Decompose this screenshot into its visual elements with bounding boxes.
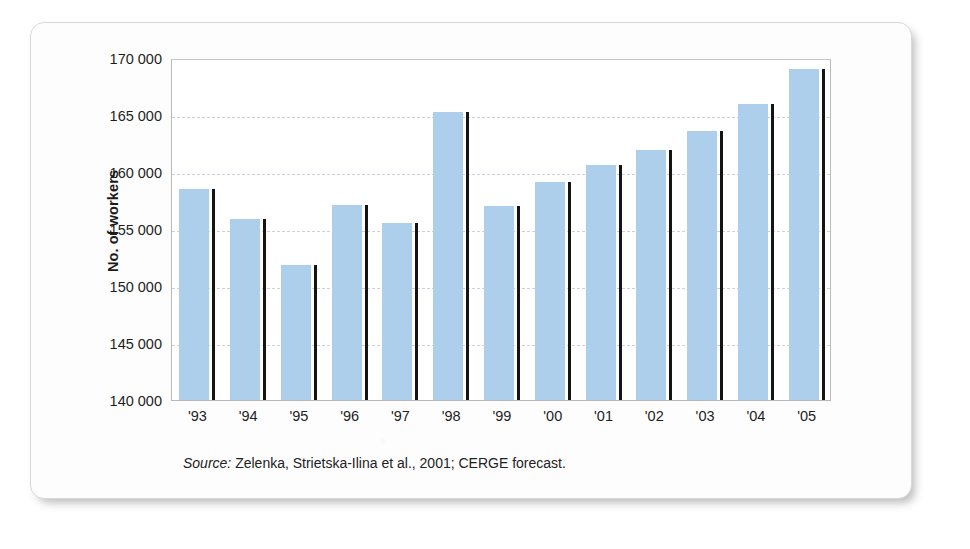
scanned-page: No. of workers 140 000145 000150 000155 … xyxy=(0,0,970,549)
y-tick-label: 170 000 xyxy=(42,51,162,67)
y-tick-label: 165 000 xyxy=(42,108,162,124)
bar-edge-line xyxy=(669,150,672,400)
x-tick-label: '04 xyxy=(730,408,781,424)
bar-edge-line xyxy=(822,69,825,400)
x-tick-label: '95 xyxy=(274,408,325,424)
bar-edge-line xyxy=(466,112,469,400)
plot-area: 140 000145 000150 000155 000160 000165 0… xyxy=(171,59,831,401)
bar xyxy=(484,206,514,400)
bar-group xyxy=(332,181,368,400)
bar-edge-line xyxy=(771,104,774,400)
x-tick-label: '03 xyxy=(680,408,731,424)
source-text: Zelenka, Strietska-Ilina et al., 2001; C… xyxy=(235,455,566,471)
bar-series xyxy=(172,36,830,400)
bar-group xyxy=(636,126,672,400)
bar xyxy=(789,69,819,400)
bar-group xyxy=(535,158,571,400)
x-tick-label: '05 xyxy=(781,408,832,424)
y-tick-label: 145 000 xyxy=(42,336,162,352)
bar xyxy=(179,189,209,400)
bar xyxy=(281,265,311,400)
y-tick-label: 140 000 xyxy=(42,393,162,409)
bar-edge-line xyxy=(720,131,723,400)
bar-edge-line xyxy=(517,206,520,400)
bar xyxy=(636,150,666,400)
y-tick-label: 160 000 xyxy=(42,165,162,181)
y-tick-label: 155 000 xyxy=(42,222,162,238)
y-tick-label: 150 000 xyxy=(42,279,162,295)
bar-group xyxy=(687,107,723,400)
x-tick-label: '01 xyxy=(578,408,629,424)
x-tick-label: '97 xyxy=(375,408,426,424)
bar-edge-line xyxy=(365,205,368,400)
x-tick-label: '96 xyxy=(324,408,375,424)
bar-group xyxy=(230,195,266,400)
x-tick-label: '02 xyxy=(629,408,680,424)
source-label: Source: xyxy=(183,455,231,471)
bar-edge-line xyxy=(314,265,317,400)
bar-edge-line xyxy=(212,189,215,400)
x-tick-label: '99 xyxy=(477,408,528,424)
bar-group xyxy=(382,199,418,400)
bar-edge-line xyxy=(619,165,622,400)
bar-group xyxy=(789,45,825,400)
x-tick-label: '94 xyxy=(223,408,274,424)
bar xyxy=(738,104,768,400)
bar-group xyxy=(586,141,622,400)
bar-group xyxy=(484,182,520,400)
bar-edge-line xyxy=(263,219,266,400)
bar-group xyxy=(179,165,215,400)
bar xyxy=(687,131,717,400)
bar-group xyxy=(738,80,774,400)
x-tick-label: '98 xyxy=(426,408,477,424)
bar-group xyxy=(433,88,469,400)
bar xyxy=(586,165,616,400)
bar xyxy=(535,182,565,400)
bar-group xyxy=(281,241,317,400)
bar-edge-line xyxy=(568,182,571,400)
x-tick-label: '00 xyxy=(527,408,578,424)
x-tick-label: '93 xyxy=(172,408,223,424)
bar xyxy=(230,219,260,400)
bar xyxy=(382,223,412,400)
bar-edge-line xyxy=(415,223,418,400)
figure-card: No. of workers 140 000145 000150 000155 … xyxy=(30,22,912,499)
source-note: Source: Zelenka, Strietska-Ilina et al.,… xyxy=(183,455,566,471)
bar xyxy=(332,205,362,400)
bar xyxy=(433,112,463,400)
